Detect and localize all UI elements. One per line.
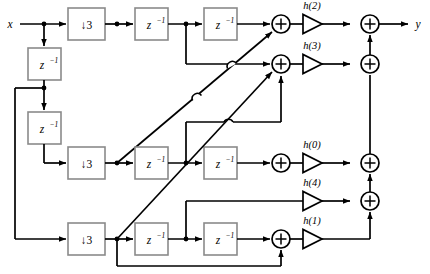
coefficient-label-h4: h(4) bbox=[303, 177, 321, 189]
hop-icon bbox=[227, 61, 236, 68]
wire-dn1-to-d1 bbox=[105, 22, 133, 27]
delay-label-8: z bbox=[215, 234, 221, 246]
delay-label-4: z bbox=[39, 123, 45, 135]
input-branch bbox=[20, 22, 66, 46]
input-label: x bbox=[6, 18, 13, 30]
wire-d7-to-d8 bbox=[168, 237, 202, 242]
output-adder-1 bbox=[361, 15, 379, 33]
adder-3 bbox=[272, 154, 290, 172]
delay-exp-1: −1 bbox=[157, 16, 166, 25]
delay-label-1: z bbox=[146, 19, 152, 31]
gain-triangle-h0 bbox=[303, 154, 322, 173]
wire-dn3-to-d7 bbox=[105, 237, 281, 266]
wire-h1-to-sum4 bbox=[322, 212, 370, 239]
output-label: y bbox=[414, 18, 421, 31]
gain-triangle-h2 bbox=[303, 15, 322, 34]
junction-dot bbox=[184, 237, 189, 242]
delay-exp-7: −1 bbox=[157, 231, 166, 240]
delay-exp-5: −1 bbox=[157, 155, 166, 164]
delay-exp-3: −1 bbox=[50, 56, 59, 65]
downsampler-label-2: ↓3 bbox=[81, 158, 93, 170]
gain-triangle-h3 bbox=[303, 55, 322, 74]
hop-icon bbox=[192, 93, 201, 100]
wire-d3-to-d4 bbox=[15, 80, 66, 239]
adder-2 bbox=[272, 55, 290, 73]
downsampler-label-1: ↓3 bbox=[81, 19, 93, 31]
output-adder-3 bbox=[361, 154, 379, 172]
delay-exp-6: −1 bbox=[226, 155, 235, 164]
delay-label-6: z bbox=[215, 158, 221, 170]
downsampler-label-3: ↓3 bbox=[81, 234, 93, 246]
wire-d4-to-dn2 bbox=[44, 144, 66, 163]
filter-diagram: ↓3 z −1 z −1 h(2) h(3) bbox=[0, 0, 430, 274]
output-adder-2 bbox=[361, 55, 379, 73]
delay-label-2: z bbox=[215, 19, 221, 31]
coefficient-label-h0: h(0) bbox=[303, 139, 321, 151]
adder-1 bbox=[272, 15, 290, 33]
coefficient-label-h3: h(3) bbox=[303, 40, 321, 52]
gain-triangle-h1 bbox=[303, 230, 322, 249]
coefficient-label-h2: h(2) bbox=[303, 0, 321, 12]
coefficient-label-h1: h(1) bbox=[303, 215, 321, 227]
gain-triangle-h4 bbox=[303, 192, 322, 211]
delay-exp-8: −1 bbox=[226, 231, 235, 240]
delay-label-7: z bbox=[146, 234, 152, 246]
delay-exp-2: −1 bbox=[226, 16, 235, 25]
delay-label-5: z bbox=[146, 158, 152, 170]
delay-label-3: z bbox=[39, 59, 45, 71]
junction-dot bbox=[115, 22, 120, 27]
adder-4 bbox=[272, 230, 290, 248]
delay-exp-4: −1 bbox=[50, 120, 59, 129]
output-adder-4 bbox=[361, 192, 379, 210]
